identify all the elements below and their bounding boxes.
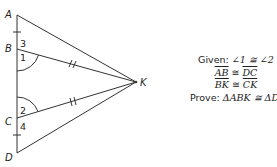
segment-BK: BK [215, 79, 229, 90]
segment-CK [17, 82, 136, 118]
given-prefix: Given: [198, 54, 232, 65]
given-prove-block: Given: ∠1 ≅ ∠2 AB ≅ DC BK ≅ CK Prove: ΔA… [190, 54, 277, 104]
segment-BK [17, 49, 136, 82]
segment-DC: DC [242, 67, 257, 78]
label-B: B [5, 43, 12, 54]
angle-label-1: 1 [20, 52, 26, 63]
label-A: A [4, 9, 12, 20]
angle-label-4: 4 [20, 121, 26, 132]
label-K: K [140, 77, 148, 88]
label-D: D [5, 152, 13, 163]
prove-statement: ΔABK ≅ ΔDCK [223, 92, 277, 103]
segment-AB: AB [215, 67, 229, 78]
segment-AK [17, 15, 136, 82]
prove-line: Prove: ΔABK ≅ ΔDCK [190, 92, 277, 105]
label-C: C [5, 116, 12, 127]
prove-prefix: Prove: [190, 92, 223, 103]
segment-CK: CK [243, 79, 257, 90]
segment-congruence-1: AB ≅ DC [190, 67, 277, 80]
given-line: Given: ∠1 ≅ ∠2 [190, 54, 277, 67]
segment-congruence-2: BK ≅ CK [190, 79, 277, 92]
point-K-dot [135, 81, 138, 84]
congruent-symbol: ≅ [229, 79, 243, 90]
angle-label-3: 3 [20, 38, 26, 49]
congruent-symbol: ≅ [228, 67, 242, 78]
angle-label-2: 2 [20, 105, 26, 116]
angle-statement: ∠1 ≅ ∠2 [232, 54, 274, 65]
segment-DK [17, 82, 136, 153]
